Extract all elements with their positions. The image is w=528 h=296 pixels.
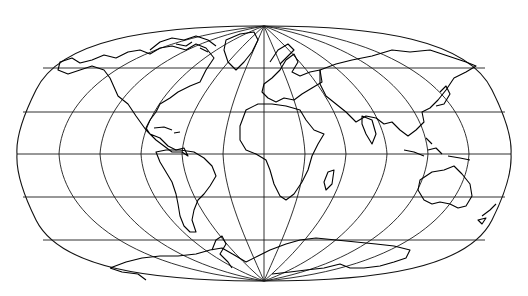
- coast-south-america: [156, 150, 216, 232]
- coast-new-zealand: [478, 204, 496, 224]
- coast-australia: [418, 166, 472, 208]
- world-map: [0, 0, 528, 296]
- coast-caribbean: [154, 127, 180, 133]
- coast-greenland: [224, 32, 258, 70]
- coast-africa: [240, 104, 324, 200]
- coast-asia: [320, 50, 476, 136]
- coast-scandinavia: [270, 44, 294, 64]
- coast-indonesia: [404, 138, 470, 160]
- coast-madagascar: [324, 170, 334, 190]
- coast-india: [362, 116, 376, 144]
- graticule-meridians: [59, 26, 469, 281]
